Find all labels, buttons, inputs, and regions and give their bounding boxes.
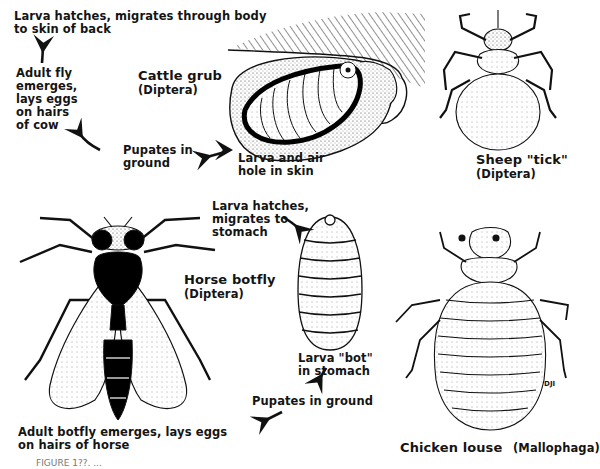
horse-botfly-step-larva-migrates: Larva hatches, migrates to stomach [212,200,309,239]
arrow-up-to-larva-migrates [42,48,43,63]
text-line: stomach [212,226,309,239]
text-line: to skin of back [14,23,267,36]
artist-signature: DJI [544,380,555,388]
text-line: hole in skin [238,165,325,178]
cattle-grub-step-pupates: Pupates in ground [123,144,193,170]
species-order: (Mallophaga) [513,441,600,455]
cattle-grub-step-larva-migrates: Larva hatches, migrates through body to … [14,10,267,36]
horse-botfly-step-adult: Adult botfly emerges, lays eggs on hairs… [18,426,227,452]
arrow-to-pupates-cattle [207,152,225,157]
text-line: of cow [16,119,78,132]
cattle-grub-step-larva-skin: Larva and air hole in skin [238,152,325,178]
cattle-grub-step-adult: Adult fly emerges, lays eggs on hairs of… [16,67,78,132]
cattle-grub-label: Cattle grub (Diptera) [138,68,222,98]
species-name: Sheep "tick" [476,152,568,167]
horse-botfly-label: Horse botfly (Diptera) [184,272,276,302]
text-line: Pupates in ground [252,395,373,408]
arrow-to-adult-fly [80,134,100,150]
species-name: Chicken louse [400,440,502,455]
horse-botfly-step-pupates: Pupates in ground [252,395,373,408]
chicken-louse-label: Chicken louse (Mallophaga) [400,440,600,456]
text-line: in stomach [298,365,373,378]
sheep-tick-illustration [440,10,556,150]
text-line: on hairs of horse [18,439,227,452]
species-order: (Diptera) [184,287,276,302]
text-line: ground [123,157,193,170]
sheep-tick-label: Sheep "tick" (Diptera) [476,152,568,182]
species-name: Horse botfly [184,272,276,287]
arrow-to-adult-botfly [266,412,282,420]
species-order: (Diptera) [476,167,568,182]
species-name: Cattle grub [138,68,222,83]
figure-caption-partial: FIGURE 1??. ... [36,458,102,468]
horse-botfly-illustration [20,217,215,420]
species-order: (Diptera) [138,83,222,98]
chicken-louse-illustration [396,228,568,431]
horse-botfly-step-bot: Larva "bot" in stomach [298,352,373,378]
